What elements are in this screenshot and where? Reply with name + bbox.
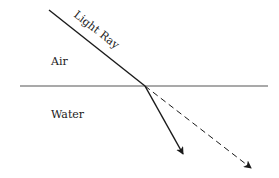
refraction-diagram: Light Ray Air Water [0,0,279,178]
undeviated-ray-dashed-arrow [145,86,251,168]
light-ray-label: Light Ray [71,8,122,52]
water-label: Water [51,108,85,121]
refracted-ray-arrow [145,86,183,154]
air-label: Air [50,55,68,68]
